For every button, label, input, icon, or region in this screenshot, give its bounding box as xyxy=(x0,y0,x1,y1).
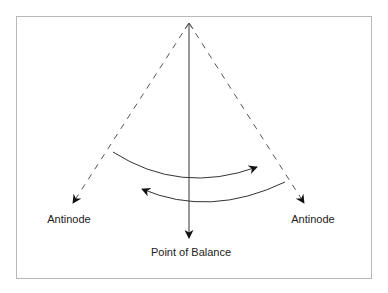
point-of-balance-label: Point of Balance xyxy=(151,246,231,259)
swing-right-arc xyxy=(113,152,257,178)
swing-left-arc xyxy=(142,182,285,202)
right-antinode-line xyxy=(189,23,304,203)
right-antinode-label: Antinode xyxy=(291,213,334,226)
left-antinode-label: Antinode xyxy=(47,213,90,226)
